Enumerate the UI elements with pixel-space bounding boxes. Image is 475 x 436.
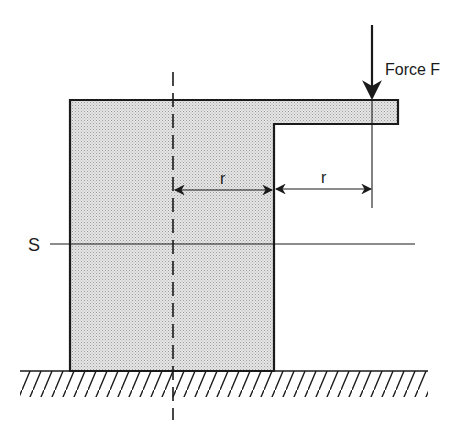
- column-body: [70, 100, 398, 371]
- force-label: Force F: [385, 61, 440, 78]
- dimension-label-right: r: [321, 169, 327, 186]
- dimension-label-left: r: [220, 170, 226, 187]
- ground-hatching: [0, 371, 450, 397]
- cantilever-diagram: S Force F r r: [0, 0, 475, 436]
- section-label: S: [28, 235, 40, 255]
